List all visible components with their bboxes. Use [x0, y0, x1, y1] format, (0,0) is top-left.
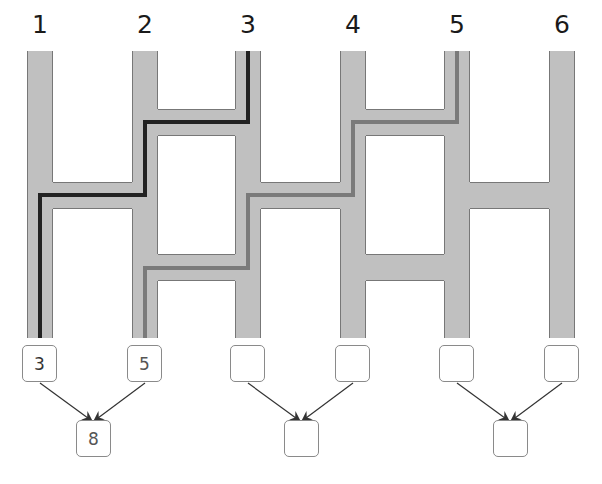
- answer-box-col6[interactable]: [544, 345, 579, 382]
- column-label-3: 3: [228, 10, 268, 40]
- answer-box-col3[interactable]: [230, 345, 265, 382]
- answer-box-col4[interactable]: [335, 345, 370, 382]
- ladder-worksheet: 1 2 3 4 5 6 3 5 8: [0, 0, 602, 484]
- arrow-3-to-sum: [40, 383, 92, 421]
- arrow-col4-to-sum: [302, 383, 353, 421]
- sum-arrows: [40, 383, 562, 421]
- column-label-4: 4: [333, 10, 373, 40]
- arrow-5-to-sum: [94, 383, 145, 421]
- sum-box-3[interactable]: [493, 420, 528, 457]
- column-label-1: 1: [20, 10, 60, 40]
- answer-box-col1[interactable]: 3: [22, 345, 57, 382]
- column-label-6: 6: [542, 10, 582, 40]
- sum-box-2[interactable]: [284, 420, 319, 457]
- traced-path-from-5: [145, 51, 457, 338]
- arrow-col3-to-sum: [248, 383, 300, 421]
- sum-box-1[interactable]: 8: [76, 420, 111, 457]
- column-label-2: 2: [125, 10, 165, 40]
- arrow-col6-to-sum: [511, 383, 562, 421]
- answer-box-col2[interactable]: 5: [127, 345, 162, 382]
- answer-box-col5[interactable]: [439, 345, 474, 382]
- column-label-5: 5: [437, 10, 477, 40]
- ladder-diagram: [0, 0, 602, 484]
- arrow-col5-to-sum: [457, 383, 509, 421]
